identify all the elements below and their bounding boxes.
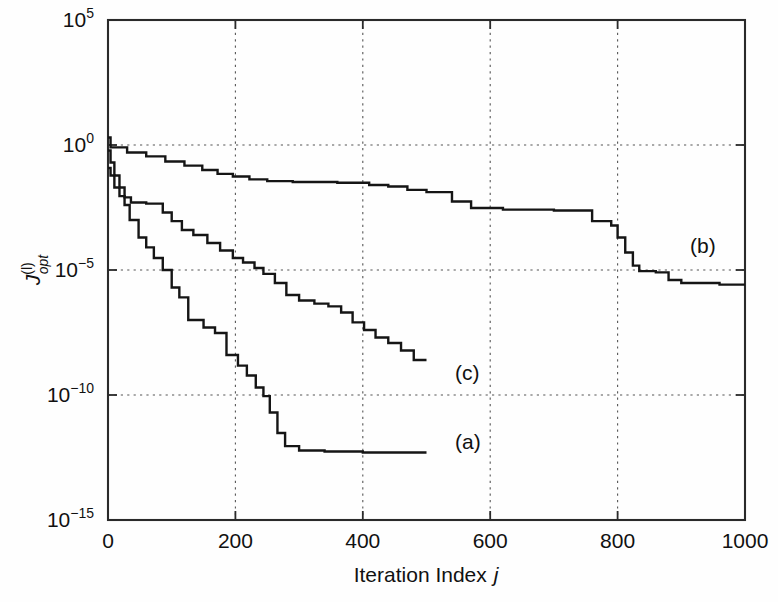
- x-tick-label: 600: [473, 529, 508, 552]
- y-tick-label: 105: [63, 5, 94, 31]
- y-tick-label: 10−10: [47, 380, 94, 406]
- x-tick-label: 800: [600, 529, 635, 552]
- curve-label-a: (a): [455, 430, 481, 453]
- data-curves: [108, 137, 745, 452]
- semilog-convergence-chart: 02004006008001000 10510010−510−1010−15 I…: [0, 0, 778, 602]
- curve-a: [108, 168, 427, 453]
- curve-annotations: (a)(b)(c): [455, 234, 716, 453]
- curve-label-b: (b): [690, 234, 716, 257]
- figure-canvas: 02004006008001000 10510010−510−1010−15 I…: [0, 0, 778, 602]
- y-tick-label: 100: [63, 130, 94, 156]
- y-tick-label: 10−15: [47, 505, 94, 531]
- y-tick-labels: 10510010−510−1010−15: [47, 5, 94, 531]
- y-axis-title: J(l)opt: [19, 254, 51, 287]
- curve-b: [108, 137, 745, 284]
- x-axis-title: Iteration Index j: [354, 563, 500, 586]
- curve-label-c: (c): [455, 361, 480, 384]
- x-tick-label: 1000: [722, 529, 769, 552]
- svg-text:J(l)opt: J(l)opt: [19, 254, 51, 287]
- x-tick-label: 0: [102, 529, 114, 552]
- x-tick-labels: 02004006008001000: [102, 529, 768, 552]
- x-tick-label: 200: [218, 529, 253, 552]
- y-tick-label: 10−5: [55, 255, 95, 281]
- x-tick-label: 400: [345, 529, 380, 552]
